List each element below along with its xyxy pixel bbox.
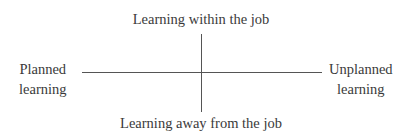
- horizontal-axis-left-label: Planned learning: [19, 59, 67, 99]
- horizontal-axis-line: [82, 72, 322, 73]
- vertical-axis-bottom-label: Learning away from the job: [0, 113, 402, 133]
- right-label-line-1: Unplanned: [329, 59, 393, 79]
- vertical-axis-top-label: Learning within the job: [0, 9, 402, 29]
- left-label-line-2: learning: [19, 79, 67, 99]
- horizontal-axis-right-label: Unplanned learning: [329, 59, 393, 99]
- vertical-axis-line: [201, 34, 202, 112]
- right-label-line-2: learning: [329, 79, 393, 99]
- left-label-line-1: Planned: [19, 59, 67, 79]
